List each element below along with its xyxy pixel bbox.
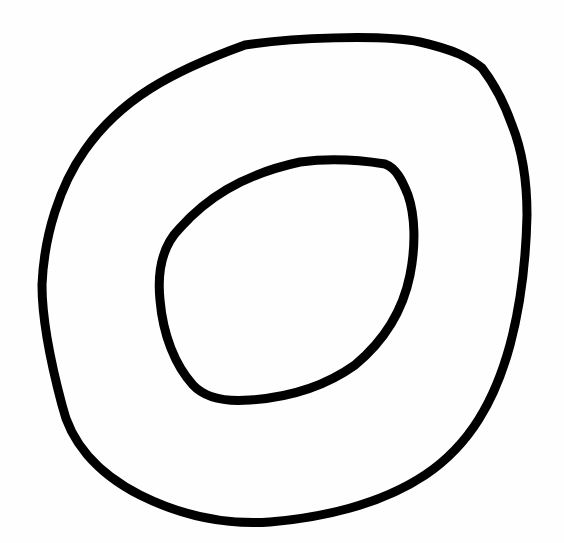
ring-drawing (0, 0, 564, 543)
inner-loop (159, 160, 414, 401)
drawing-canvas (0, 0, 564, 543)
outer-loop (42, 38, 527, 523)
